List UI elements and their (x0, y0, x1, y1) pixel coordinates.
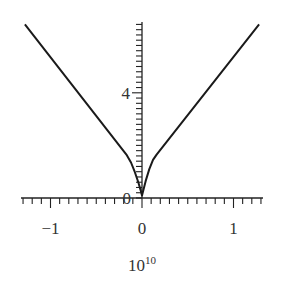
y-tick-label-0: 0 (123, 189, 132, 208)
x-axis-scale-label: 1010 (128, 254, 157, 275)
x-axis-ticks (23, 198, 261, 208)
x-tick-label-0: 0 (138, 219, 147, 238)
line-chart: 4 0 −1 0 1 1010 (0, 0, 283, 293)
y-tick-label-4: 4 (122, 84, 131, 103)
y-axis-ticks (132, 24, 142, 198)
x-scale-exponent: 10 (145, 254, 157, 266)
x-scale-base: 10 (128, 256, 145, 275)
x-tick-label-1: 1 (229, 219, 238, 238)
x-tick-label-neg1: −1 (41, 219, 59, 238)
